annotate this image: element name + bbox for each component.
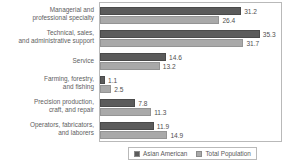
chart-category-row: Managerial andprofessional specialty31.2… — [0, 4, 296, 27]
bar-total-population — [100, 85, 111, 93]
category-label: Farming, forestry,and fishing — [0, 75, 94, 90]
bar-wrapper: 11.9 — [100, 122, 282, 130]
bar-total-population — [100, 62, 160, 70]
bar-wrapper: 31.2 — [100, 7, 282, 15]
bar-group: 14.613.2 — [100, 50, 282, 73]
category-label: Operators, fabricators,and laborers — [0, 121, 94, 136]
category-label-line: craft, and repair — [0, 106, 94, 114]
bar-value-label: 31.2 — [244, 7, 257, 16]
legend-swatch-icon — [196, 151, 202, 157]
bar-value-label: 13.2 — [163, 62, 176, 71]
bar-asian-american — [100, 122, 154, 130]
category-label: Managerial andprofessional specialty — [0, 6, 94, 21]
category-label-line: Farming, forestry, — [0, 75, 94, 83]
category-label-line: Technical, sales, — [0, 29, 94, 37]
bar-wrapper: 26.4 — [100, 16, 282, 24]
category-label-line: Managerial and — [0, 6, 94, 14]
bar-wrapper: 13.2 — [100, 62, 282, 70]
chart-category-row: Technical, sales,and administrative supp… — [0, 27, 296, 50]
bar-wrapper: 14.6 — [100, 53, 282, 61]
category-label: Technical, sales,and administrative supp… — [0, 29, 94, 44]
bar-value-label: 11.3 — [154, 108, 166, 117]
bar-value-label: 26.4 — [222, 16, 235, 25]
category-label-line: and fishing — [0, 83, 94, 91]
legend-swatch-icon — [134, 151, 140, 157]
bar-value-label: 7.8 — [138, 99, 147, 108]
bar-total-population — [100, 39, 243, 47]
bar-total-population — [100, 108, 151, 116]
bar-total-population — [100, 16, 219, 24]
category-label-line: and administrative support — [0, 37, 94, 45]
bar-value-label: 14.6 — [169, 53, 182, 62]
category-label-line: and laborers — [0, 129, 94, 137]
bar-total-population — [100, 131, 167, 139]
category-label-line: Service — [0, 57, 94, 65]
bar-value-label: 35.3 — [263, 30, 276, 39]
category-label-line: Precision production, — [0, 98, 94, 106]
category-label: Precision production,craft, and repair — [0, 98, 94, 113]
bar-asian-american — [100, 53, 166, 61]
bar-group: 7.811.3 — [100, 96, 282, 119]
bar-wrapper: 35.3 — [100, 30, 282, 38]
bar-group: 1.12.5 — [100, 73, 282, 96]
chart-category-row: Precision production,craft, and repair7.… — [0, 96, 296, 119]
bar-value-label: 31.7 — [246, 39, 259, 48]
bar-group: 11.914.9 — [100, 119, 282, 142]
legend-label: Total Population — [205, 150, 250, 157]
bar-wrapper: 11.3 — [100, 108, 282, 116]
chart-category-row: Operators, fabricators,and laborers11.91… — [0, 119, 296, 142]
bar-value-label: 1.1 — [108, 76, 117, 85]
bar-asian-american — [100, 7, 241, 15]
bar-asian-american — [100, 76, 105, 84]
chart-legend: Asian AmericanTotal Population — [128, 147, 257, 160]
chart-category-row: Farming, forestry,and fishing1.12.5 — [0, 73, 296, 96]
bar-asian-american — [100, 99, 135, 107]
legend-label: Asian American — [143, 150, 187, 157]
bar-value-label: 2.5 — [114, 85, 123, 94]
chart-category-row: Service14.613.2 — [0, 50, 296, 73]
bar-group: 31.226.4 — [100, 4, 282, 27]
category-label-line: professional specialty — [0, 14, 94, 22]
bar-group: 35.331.7 — [100, 27, 282, 50]
grouped-bar-chart: Managerial andprofessional specialty31.2… — [0, 0, 296, 166]
bar-value-label: 14.9 — [170, 131, 183, 140]
bar-asian-american — [100, 30, 260, 38]
bar-wrapper: 14.9 — [100, 131, 282, 139]
legend-item[interactable]: Total Population — [196, 150, 250, 157]
bar-wrapper: 31.7 — [100, 39, 282, 47]
bar-wrapper: 2.5 — [100, 85, 282, 93]
legend-item[interactable]: Asian American — [134, 150, 187, 157]
bar-wrapper: 7.8 — [100, 99, 282, 107]
category-label: Service — [0, 57, 94, 65]
bar-value-label: 11.9 — [157, 122, 169, 131]
category-label-line: Operators, fabricators, — [0, 121, 94, 129]
bar-wrapper: 1.1 — [100, 76, 282, 84]
